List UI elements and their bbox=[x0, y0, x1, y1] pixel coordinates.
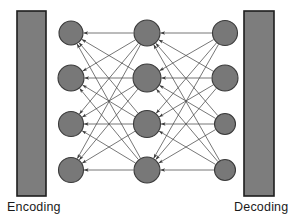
encoding-edge-group bbox=[77, 33, 140, 170]
encoding-label: Encoding bbox=[7, 200, 61, 214]
neuron-node bbox=[134, 20, 160, 46]
decoding-bar-group bbox=[244, 11, 274, 196]
encoding-bar bbox=[17, 11, 46, 196]
encoding-edge bbox=[79, 89, 137, 160]
network-diagram-canvas: Encoding Decoding bbox=[0, 0, 294, 223]
decoding-edge bbox=[154, 45, 220, 161]
encoding-bar-group bbox=[17, 11, 46, 196]
neuron-node bbox=[212, 65, 238, 91]
neuron-node bbox=[215, 160, 236, 181]
neuron-node bbox=[134, 157, 160, 183]
node-group bbox=[58, 20, 238, 183]
neuron-node bbox=[215, 114, 236, 135]
decoding-edge bbox=[159, 131, 215, 164]
neural-network-figure: Encoding Decoding bbox=[0, 0, 294, 223]
neuron-node bbox=[134, 111, 161, 138]
decoding-edge bbox=[156, 43, 218, 115]
neuron-node bbox=[58, 65, 84, 91]
decoding-edge bbox=[159, 85, 215, 118]
decoding-label: Decoding bbox=[234, 200, 288, 214]
decoding-edge-group bbox=[154, 33, 220, 170]
neuron-node bbox=[213, 21, 238, 46]
neuron-node bbox=[59, 112, 84, 137]
neuron-node bbox=[133, 64, 161, 92]
neuron-node bbox=[59, 21, 83, 45]
decoding-bar bbox=[244, 11, 274, 196]
neuron-node bbox=[59, 158, 84, 183]
